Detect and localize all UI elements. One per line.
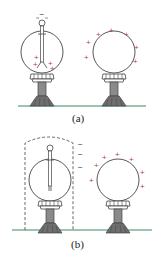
conductor-sphere [97, 159, 139, 201]
svg-text:−: − [78, 163, 83, 172]
panel-b-label: (b) [71, 238, 84, 251]
electroscope-rod [49, 151, 52, 186]
panel-a: − + + + + + + + + + + + (a) [18, 10, 146, 125]
svg-text:−: − [78, 150, 83, 159]
svg-text:+: + [115, 150, 120, 159]
panel-b: − − − + + + + + + + (b) [12, 137, 152, 251]
svg-text:+: + [33, 60, 38, 69]
charged-sphere-a: + + + + + + + [84, 26, 139, 106]
knob-charge: − [40, 10, 45, 19]
svg-text:+: + [129, 155, 134, 164]
electroscope-knob [39, 20, 45, 26]
svg-text:+: + [134, 43, 139, 52]
svg-text:+: + [140, 182, 145, 191]
electroscope-rod [41, 26, 44, 62]
svg-text:+: + [89, 176, 94, 185]
svg-text:+: + [140, 168, 145, 177]
electroscope-b [29, 145, 71, 233]
svg-text:+: + [124, 30, 129, 39]
svg-text:+: + [96, 30, 101, 39]
electroscope-a: − + + + + [21, 10, 63, 106]
charged-sphere-b: + + + + + + + [89, 150, 145, 233]
svg-text:+: + [94, 161, 99, 170]
svg-text:+: + [133, 57, 138, 66]
panel-a-label: (a) [72, 112, 85, 125]
svg-text:+: + [102, 153, 107, 162]
electrostatics-diagram: − + + + + + + + + + + + (a) − [0, 0, 162, 263]
svg-text:+: + [84, 53, 89, 62]
svg-text:+: + [50, 64, 55, 73]
electroscope-knob [47, 145, 53, 151]
svg-text:+: + [109, 26, 114, 35]
svg-text:+: + [86, 38, 91, 47]
svg-text:−: − [78, 140, 83, 149]
